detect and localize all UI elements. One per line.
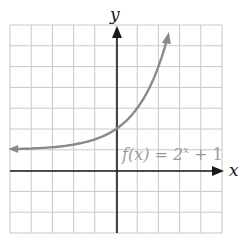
function-curve — [14, 40, 167, 149]
chart: y x f(x) = 2x + 1 — [0, 0, 240, 241]
curve-top-arrow-icon — [162, 32, 171, 44]
y-axis-label: y — [109, 4, 120, 24]
y-axis-arrow-icon — [112, 26, 122, 38]
x-axis-label: x — [229, 160, 239, 180]
function-label: f(x) = 2x + 1 — [121, 144, 223, 164]
